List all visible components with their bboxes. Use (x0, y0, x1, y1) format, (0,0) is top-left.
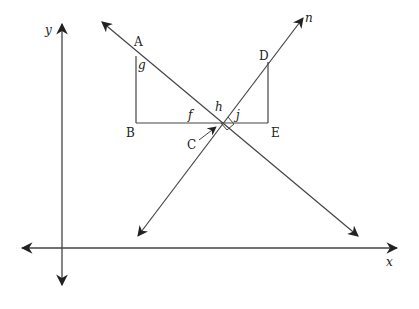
angle-g-label: g (138, 58, 146, 72)
line-n-label: n (305, 11, 313, 25)
c-pointer-arrow (199, 127, 216, 140)
angle-j-label: j (233, 108, 240, 122)
line-ac (102, 22, 358, 236)
point-d-label: D (259, 49, 269, 63)
angle-h-label: h (215, 100, 223, 114)
point-b-label: B (126, 126, 135, 140)
point-c-label: C (187, 138, 196, 152)
y-axis-label: y (44, 23, 52, 37)
angle-f-label: f (187, 108, 195, 122)
x-axis-label: x (386, 255, 393, 269)
point-a-label: A (133, 35, 143, 49)
geometry-diagram: y x n A B C D E g f h j (0, 0, 419, 309)
point-e-label: E (271, 126, 280, 140)
